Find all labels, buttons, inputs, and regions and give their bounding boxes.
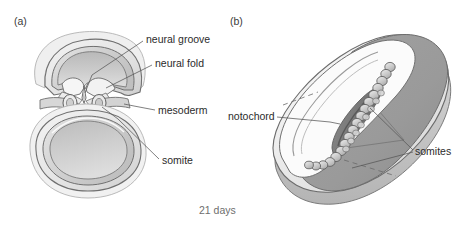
yolk-sac-lumen (50, 121, 127, 179)
label-neural-fold: neural fold (155, 58, 204, 69)
panel-tag-a: (a) (14, 16, 27, 27)
embryology-figure: (a) (b) neural groove neural fold mesode… (0, 0, 464, 227)
panel-a-artwork (30, 31, 159, 198)
label-somites: somites (415, 146, 451, 157)
panel-b-artwork (273, 34, 451, 204)
label-neural-groove: neural groove (146, 34, 210, 45)
somite-bead (305, 161, 314, 169)
figure-caption-days: 21 days (199, 205, 236, 216)
label-mesoderm: mesoderm (158, 105, 208, 116)
label-notochord: notochord (228, 111, 275, 122)
label-somite: somite (162, 155, 193, 166)
panel-tag-b: (b) (230, 16, 243, 27)
